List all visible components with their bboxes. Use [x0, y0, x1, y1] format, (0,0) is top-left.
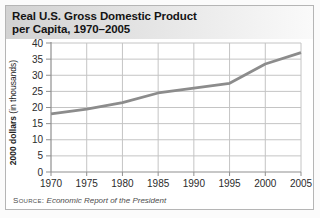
- y-axis-title-sub: (in thousands): [8, 60, 18, 116]
- y-axis-title-main: 2000 dollars: [8, 116, 18, 165]
- chart-plot: 0510152025303540197019751980198519901995…: [6, 6, 313, 209]
- y-tick-label: 15: [32, 118, 44, 129]
- y-tick-label: 10: [32, 134, 44, 145]
- y-tick-label: 5: [37, 150, 43, 161]
- gdp-chart-figure: Real U.S. Gross Domestic Product per Cap…: [5, 5, 314, 210]
- x-tick-label: 1980: [111, 178, 134, 189]
- source-label: Source:: [13, 196, 44, 205]
- y-tick-label: 0: [37, 167, 43, 178]
- x-tick-label: 1970: [40, 178, 63, 189]
- x-tick-label: 2005: [290, 178, 313, 189]
- x-tick-label: 1985: [147, 178, 170, 189]
- x-tick-label: 2000: [254, 178, 277, 189]
- y-tick-label: 30: [32, 70, 44, 81]
- y-tick-label: 40: [32, 38, 44, 49]
- source-line: Source: Economic Report of the President: [13, 196, 166, 205]
- x-tick-label: 1995: [218, 178, 241, 189]
- x-tick-label: 1990: [183, 178, 206, 189]
- y-tick-label: 20: [32, 102, 44, 113]
- y-tick-label: 35: [32, 54, 44, 65]
- x-tick-label: 1975: [76, 178, 99, 189]
- gdp-per-capita-line: [51, 53, 301, 114]
- y-tick-label: 25: [32, 86, 44, 97]
- source-title: Economic Report of the President: [47, 196, 167, 205]
- y-axis-title: 2000 dollars (in thousands): [8, 38, 21, 188]
- page: { "figure": { "title_line1": "Real U.S. …: [0, 0, 320, 218]
